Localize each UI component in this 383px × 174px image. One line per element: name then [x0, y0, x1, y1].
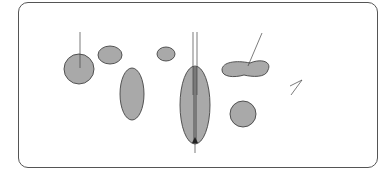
top-protein-bump	[98, 46, 122, 64]
surface-protein	[222, 61, 269, 77]
lower-embedded-protein	[230, 101, 256, 127]
transmembrane-protein	[120, 68, 144, 120]
embedded-protein	[64, 54, 94, 84]
channel-forming-protein	[180, 66, 210, 144]
membrane-illustration	[0, 0, 383, 174]
top-protein-bump-2	[157, 47, 175, 61]
